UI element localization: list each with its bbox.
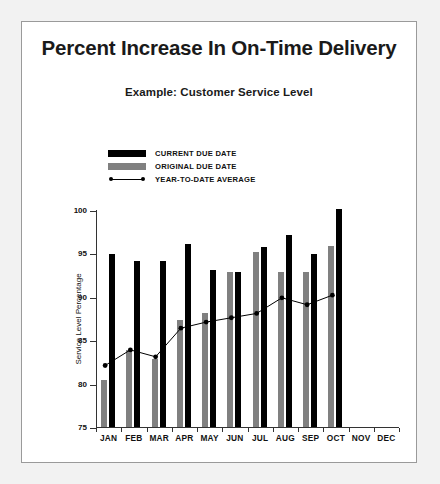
legend-item-year-to-date-average: YEAR-TO-DATE AVERAGE [108, 174, 256, 185]
ytd-average-point [305, 302, 310, 307]
x-axis-tick [374, 428, 375, 432]
ytd-average-point [330, 293, 335, 298]
x-axis-tick [96, 428, 97, 432]
ytd-average-line [96, 210, 399, 428]
y-axis-tick-label: 95 [69, 249, 87, 258]
x-axis-label-jan: JAN [100, 433, 117, 443]
gray-bar-swatch-icon [108, 163, 146, 170]
x-axis-label-aug: AUG [276, 433, 295, 443]
x-axis-label-apr: APR [175, 433, 193, 443]
x-axis-tick [248, 428, 249, 432]
y-axis-tick-label: 100 [69, 206, 87, 215]
x-axis-tick [121, 428, 122, 432]
black-bar-swatch-icon [108, 150, 146, 157]
ytd-average-point [229, 315, 234, 320]
x-axis-tick [222, 428, 223, 432]
ytd-average-point [178, 326, 183, 331]
page-subtitle: Example: Customer Service Level [22, 86, 416, 98]
x-axis-label-may: MAY [200, 433, 218, 443]
x-axis-label-sep: SEP [302, 433, 319, 443]
legend-item-label: CURRENT DUE DATE [155, 149, 236, 158]
y-axis-title: Service Level Percentage [74, 273, 83, 364]
x-axis-label-mar: MAR [149, 433, 169, 443]
ytd-average-point [153, 354, 158, 359]
legend-item-label: YEAR-TO-DATE AVERAGE [155, 175, 256, 184]
y-axis-tick-label: 80 [69, 380, 87, 389]
x-axis-label-nov: NOV [352, 433, 371, 443]
ytd-average-polyline [96, 210, 399, 428]
x-axis-tick [298, 428, 299, 432]
chart-legend: CURRENT DUE DATE ORIGINAL DUE DATE YEAR-… [108, 148, 256, 187]
x-axis-tick [349, 428, 350, 432]
y-axis-tick-label: 85 [69, 336, 87, 345]
y-axis-tick-label: 90 [69, 293, 87, 302]
legend-item-original-due-date: ORIGINAL DUE DATE [108, 161, 256, 172]
page-title: Percent Increase In On-Time Delivery [22, 36, 416, 60]
x-axis-tick [147, 428, 148, 432]
ytd-average-point [279, 295, 284, 300]
legend-item-label: ORIGINAL DUE DATE [155, 162, 237, 171]
ytd-average-point [103, 363, 108, 368]
x-axis-tick [197, 428, 198, 432]
chart-plot-area: Service Level Percentage 7580859095100 J… [69, 210, 399, 428]
x-axis-tick [399, 428, 400, 432]
x-axis-tick [273, 428, 274, 432]
ytd-average-point [204, 320, 209, 325]
y-axis-tick-label: 75 [69, 423, 87, 432]
x-axis-labels: JANFEBMARAPRMAYJUNJULAUGSEPOCTNOVDEC [96, 433, 399, 445]
legend-item-current-due-date: CURRENT DUE DATE [108, 148, 256, 159]
x-axis-label-jul: JUL [252, 433, 268, 443]
ytd-average-point [254, 311, 259, 316]
line-marker-swatch-icon [108, 175, 146, 184]
x-axis-label-oct: OCT [327, 433, 345, 443]
x-axis-label-dec: DEC [377, 433, 395, 443]
x-axis-label-feb: FEB [125, 433, 142, 443]
x-axis-tick [172, 428, 173, 432]
slide-canvas: Percent Increase In On-Time Delivery Exa… [21, 21, 417, 463]
x-axis-label-jun: JUN [226, 433, 243, 443]
ytd-average-point [128, 347, 133, 352]
x-axis-tick [323, 428, 324, 432]
